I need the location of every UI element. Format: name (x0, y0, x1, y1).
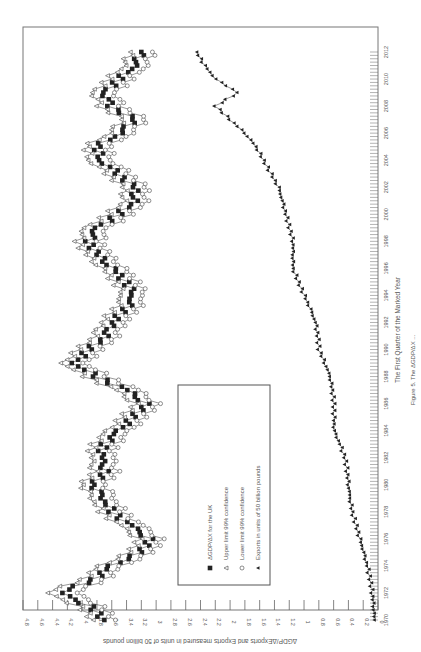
legend: ΔGDP/ΔX for the UKUpper limit 99% confid… (178, 385, 270, 585)
year-tick-label: 1988 (383, 370, 389, 382)
year-tick-label: 1976 (383, 533, 389, 545)
value-tick-label: 3 (157, 620, 163, 623)
year-tick-label: 1998 (383, 235, 389, 247)
value-tick-label: 4.2 (68, 618, 74, 626)
value-tick-label: 0.8 (320, 618, 326, 626)
value-tick-label: 4.6 (39, 618, 45, 626)
year-tick-label: 1992 (383, 316, 389, 328)
chart-svg: 00.20.40.60.811.21.41.61.822.22.42.62.83… (0, 0, 421, 652)
year-tick-label: 1972 (383, 587, 389, 599)
value-tick-label: 1.2 (290, 618, 296, 626)
value-tick-label: 4.8 (24, 618, 30, 626)
year-tick-label: 1974 (383, 560, 389, 572)
value-axis-label: ΔGDP/ΔExports and Exports measured in un… (102, 637, 297, 645)
year-tick-label: 2006 (383, 127, 389, 139)
year-tick-label: 1978 (383, 506, 389, 518)
value-tick-label: 1.6 (261, 618, 267, 626)
figure-caption: Figure 5. The ΔGDP/ΔX ... (410, 334, 416, 405)
series-filled-square (60, 50, 155, 623)
year-tick-label: 1982 (383, 452, 389, 464)
year-tick-label: 2012 (383, 46, 389, 58)
value-tick-label: 2.6 (187, 618, 193, 626)
series-triangle (46, 50, 144, 622)
rotated-line-chart: 00.20.40.60.811.21.41.61.822.22.42.62.83… (0, 0, 421, 652)
series-open-circle (75, 50, 166, 622)
value-tick-label: 2.4 (202, 618, 208, 626)
value-tick-label: 4.4 (54, 618, 60, 626)
value-tick-label: 1 (305, 620, 311, 623)
legend-item-label: Upper limit 99% confidence (223, 486, 229, 560)
value-tick-label: 1.4 (275, 618, 281, 626)
year-tick-label: 1986 (383, 397, 389, 409)
year-tick-label: 1990 (383, 343, 389, 355)
year-tick-label: 1996 (383, 262, 389, 274)
value-tick-label: 2 (231, 620, 237, 623)
year-axis-ticks: 1970197219741976197819801982198419861988… (370, 46, 389, 626)
year-tick-label: 1984 (383, 425, 389, 437)
value-tick-label: 4 (83, 620, 89, 623)
year-tick-label: 1994 (383, 289, 389, 301)
year-tick-label: 2000 (383, 208, 389, 220)
year-tick-label: 1970 (383, 614, 389, 626)
year-tick-label: 2010 (383, 73, 389, 85)
legend-item-label: ΔGDP/ΔX for the UK (207, 505, 213, 560)
value-tick-label: 3.4 (128, 618, 134, 626)
value-tick-label: 2.8 (172, 618, 178, 626)
year-tick-label: 2004 (383, 154, 389, 166)
year-tick-label: 1980 (383, 479, 389, 491)
year-tick-label: 2008 (383, 100, 389, 112)
year-axis-label: The First Quarter of the Marked Year (394, 276, 402, 383)
value-tick-label: 0.6 (335, 618, 341, 626)
legend-item-label: Exports in units of 50 billion pounds (255, 466, 261, 560)
value-tick-label: 3.2 (142, 618, 148, 626)
value-tick-label: 2.2 (216, 618, 222, 626)
value-tick-label: 0.2 (364, 618, 370, 626)
value-tick-label: 0.4 (349, 618, 355, 626)
legend-item-label: Lower limit 99% confidence (239, 486, 245, 560)
year-tick-label: 2002 (383, 181, 389, 193)
value-tick-label: 1.8 (246, 618, 252, 626)
